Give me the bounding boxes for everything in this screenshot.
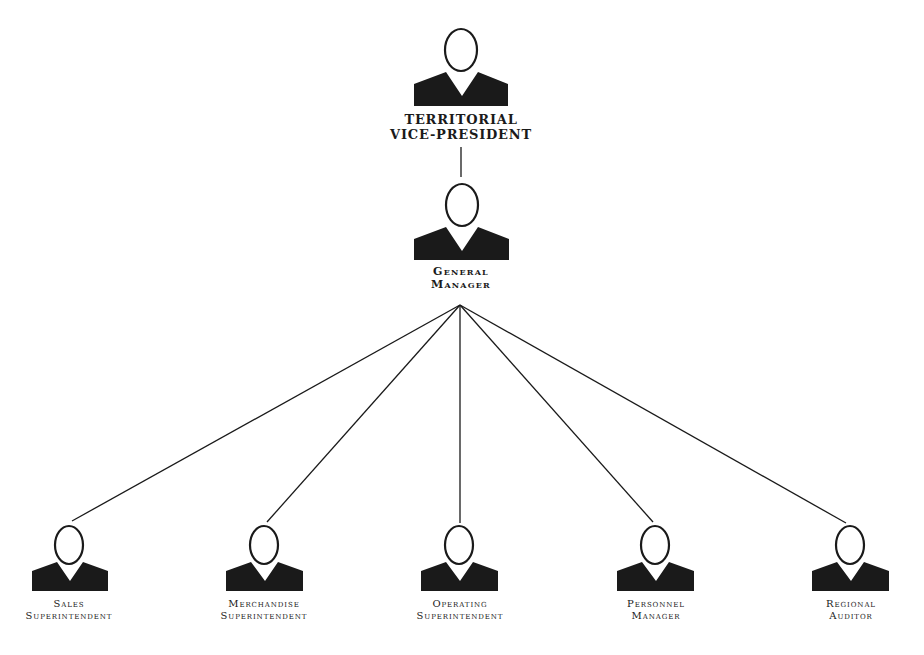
label-line-1: Merchandise [221,598,308,610]
node-label-general-manager: General Manager [431,266,491,291]
edge-gm-to-merchandise [267,305,460,522]
label-line-1: Operating [417,598,504,610]
label-line-2: Superintendent [417,610,504,622]
label-line-2: VICE-PRESIDENT [390,128,532,143]
node-label-regional-auditor: Regional Auditor [826,598,876,621]
node-label-personnel-manager: Personnel Manager [627,598,685,621]
node-label-operating-superintendent: Operating Superintendent [417,598,504,621]
label-line-1: Sales [26,598,113,610]
edge-gm-to-auditor [460,305,846,523]
label-line-2: Manager [627,610,685,622]
person-icon-territorial-vp [414,29,508,106]
org-chart-diagram [0,0,924,655]
person-icon-personnel-manager [617,526,694,591]
person-icon-operating-superintendent [421,526,498,591]
node-label-merchandise-superintendent: Merchandise Superintendent [221,598,308,621]
label-line-2: Superintendent [221,610,308,622]
person-icon-merchandise-superintendent [226,526,303,591]
label-line-1: General [431,266,491,279]
node-label-sales-superintendent: Sales Superintendent [26,598,113,621]
edge-gm-to-sales [72,305,460,521]
label-line-2: Manager [431,279,491,292]
person-icon-general-manager [414,184,509,260]
label-line-1: Regional [826,598,876,610]
label-line-2: Auditor [826,610,876,622]
label-line-2: Superintendent [26,610,113,622]
node-label-territorial-vp: TERRITORIAL VICE-PRESIDENT [390,113,532,143]
label-line-1: Personnel [627,598,685,610]
label-line-1: TERRITORIAL [390,113,532,128]
edge-gm-to-personnel [460,305,653,522]
person-icon-sales-superintendent [32,526,108,591]
person-icon-regional-auditor [812,526,889,591]
